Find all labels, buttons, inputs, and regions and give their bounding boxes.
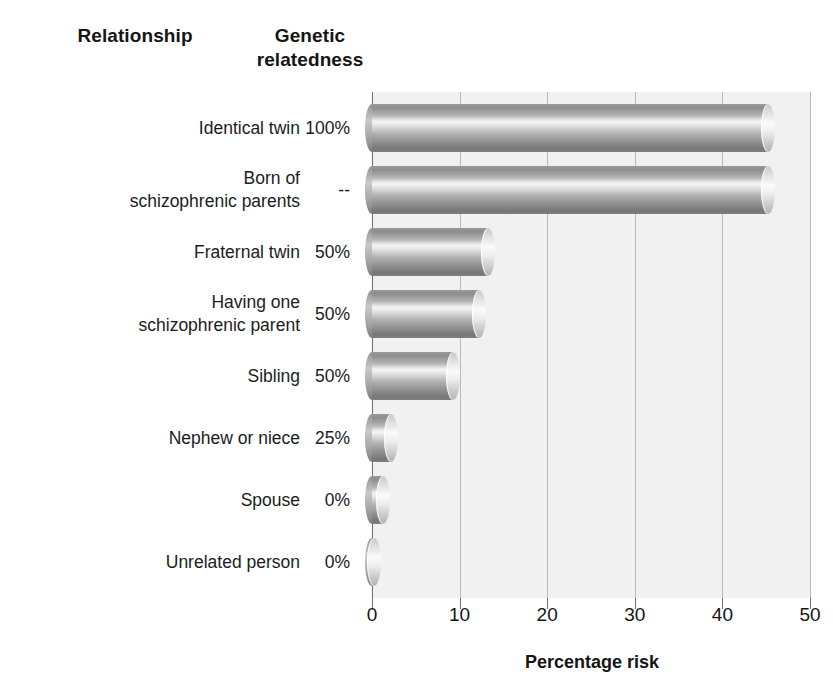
row-label-relationship: Having oneschizophrenic parent (20, 291, 300, 337)
x-tick-label-30: 30 (615, 604, 655, 626)
x-tick-label-20: 20 (527, 604, 567, 626)
bar-body (372, 290, 479, 338)
bar-cap-right (367, 538, 381, 586)
row-label-line: Nephew or niece (20, 427, 300, 450)
row-label-relationship: Born ofschizophrenic parents (20, 167, 300, 213)
chart-row: Identical twin100% (0, 104, 833, 152)
row-label-relationship: Sibling (20, 365, 300, 388)
row-label-relationship: Nephew or niece (20, 427, 300, 450)
bar-cap-right (384, 414, 398, 462)
bar-fraternal-twin (372, 228, 495, 276)
row-label-line: Unrelated person (20, 551, 300, 574)
bar-unrelated-person (372, 538, 381, 586)
x-tick-label-40: 40 (702, 604, 742, 626)
row-label-relationship: Unrelated person (20, 551, 300, 574)
row-label-line: schizophrenic parent (20, 314, 300, 337)
chart-row: Sibling50% (0, 352, 833, 400)
bar-nephew-or-niece (372, 414, 398, 462)
x-tick-label-10: 10 (440, 604, 480, 626)
row-value-genetic-relatedness: -- (292, 179, 350, 202)
row-label-line: Fraternal twin (20, 241, 300, 264)
bar-body (372, 228, 488, 276)
row-value-genetic-relatedness: 0% (292, 551, 350, 574)
bar-born-of-schizophrenic-parents (372, 166, 775, 214)
bar-cap-right (761, 166, 775, 214)
bar-sibling (372, 352, 460, 400)
row-value-genetic-relatedness: 100% (292, 117, 350, 140)
row-value-genetic-relatedness: 25% (292, 427, 350, 450)
bar-having-one-schizophrenic-parent (372, 290, 486, 338)
column-header-genetic-relatedness: Genetic relatedness (240, 24, 380, 72)
row-label-relationship: Identical twin (20, 117, 300, 140)
bar-cap-right (761, 104, 775, 152)
chart-row: Unrelated person0% (0, 538, 833, 586)
row-label-line: schizophrenic parents (20, 190, 300, 213)
row-label-relationship: Fraternal twin (20, 241, 300, 264)
row-value-genetic-relatedness: 50% (292, 365, 350, 388)
bar-cap-right (376, 476, 390, 524)
bar-cap-right (481, 228, 495, 276)
column-header-relationship: Relationship (35, 24, 235, 48)
x-axis-title: Percentage risk (392, 652, 792, 673)
row-value-genetic-relatedness: 50% (292, 241, 350, 264)
row-label-line: Spouse (20, 489, 300, 512)
bar-body (372, 104, 768, 152)
chart-row: Fraternal twin50% (0, 228, 833, 276)
row-value-genetic-relatedness: 0% (292, 489, 350, 512)
chart-row: Having oneschizophrenic parent50% (0, 290, 833, 338)
row-value-genetic-relatedness: 50% (292, 303, 350, 326)
row-label-line: Having one (20, 291, 300, 314)
bar-cap-right (446, 352, 460, 400)
chart-row: Spouse0% (0, 476, 833, 524)
bar-spouse (372, 476, 390, 524)
bar-identical-twin (372, 104, 775, 152)
genetic-risk-chart: Relationship Genetic relatedness Identic… (0, 0, 833, 697)
x-tick-label-0: 0 (352, 604, 392, 626)
chart-row: Born ofschizophrenic parents-- (0, 166, 833, 214)
row-label-line: Born of (20, 167, 300, 190)
bar-cap-right (472, 290, 486, 338)
row-label-line: Sibling (20, 365, 300, 388)
row-label-relationship: Spouse (20, 489, 300, 512)
x-tick-label-50: 50 (790, 604, 830, 626)
chart-row: Nephew or niece25% (0, 414, 833, 462)
bar-body (372, 352, 453, 400)
row-label-line: Identical twin (20, 117, 300, 140)
bar-body (372, 166, 768, 214)
